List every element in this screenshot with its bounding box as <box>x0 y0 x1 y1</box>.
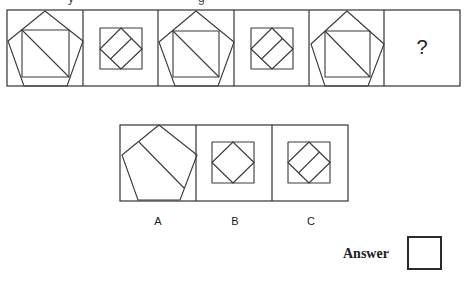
option-b-hit-area[interactable] <box>196 125 272 201</box>
option-a-label: A <box>148 215 168 227</box>
option-a-hit-area[interactable] <box>120 125 196 201</box>
option-c-figure[interactable] <box>272 125 348 201</box>
sequence-cell-4 <box>251 28 293 69</box>
pentagon-shape <box>159 11 234 86</box>
answer-label: Answer <box>343 246 389 262</box>
puzzle-canvas <box>0 0 467 283</box>
question-mark: ? <box>407 36 437 59</box>
option-c-label: C <box>301 215 321 227</box>
sequence-cell-3 <box>159 11 234 86</box>
answer-input-box[interactable] <box>407 236 442 270</box>
inner-line <box>262 39 283 60</box>
option-c-hit-area[interactable] <box>272 125 348 201</box>
diagonal-line <box>325 31 370 77</box>
inner-line <box>111 39 132 60</box>
diagonal-line <box>22 30 69 77</box>
clipped-heading-fragment: g <box>198 0 205 5</box>
sequence-cell-2 <box>100 28 142 69</box>
option-a-figure[interactable] <box>120 125 197 201</box>
pentagon-shape <box>311 11 384 86</box>
clipped-heading-fragment: y <box>68 0 74 5</box>
diagonal-line <box>173 31 219 77</box>
options-row <box>120 125 348 201</box>
option-b-figure[interactable] <box>196 125 272 201</box>
sequence-row <box>7 10 460 86</box>
sequence-cell-5 <box>311 11 384 86</box>
pentagon-shape <box>8 11 83 86</box>
sequence-cell-1 <box>8 11 83 86</box>
option-b-label: B <box>225 215 245 227</box>
